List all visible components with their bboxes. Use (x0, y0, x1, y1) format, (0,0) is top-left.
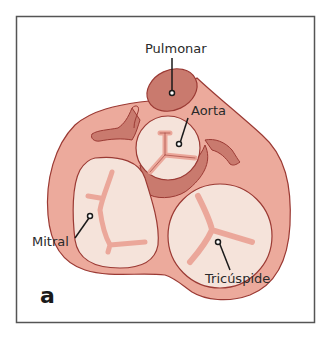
tricuspid-dot (216, 240, 221, 245)
aorta-dot (177, 142, 182, 147)
label-mitral: Mitral (32, 234, 69, 249)
heart-valves-figure: Pulmonar Aorta Mitral Tricúspide a (0, 0, 329, 341)
pulmonary-dot (170, 91, 175, 96)
label-tricuspid: Tricúspide (204, 271, 270, 286)
label-pulmonary: Pulmonar (145, 41, 207, 56)
label-aorta: Aorta (191, 103, 226, 118)
mitral-dot (88, 214, 93, 219)
panel-letter: a (40, 283, 55, 308)
aortic-valve (136, 116, 200, 180)
